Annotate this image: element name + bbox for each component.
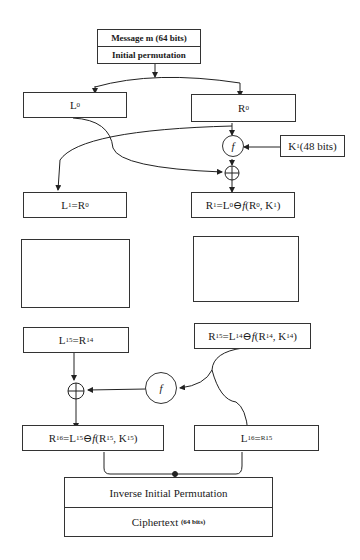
r16-args-open: (R (95, 432, 106, 444)
l15-rhs: R (79, 334, 86, 346)
k1-box: K1 (48 bits) (280, 135, 345, 157)
l15-box: L15 = R14 (23, 327, 129, 353)
r1-lhs: R (206, 199, 213, 211)
intermediate-rounds-left-box (21, 239, 130, 308)
inverse-permutation-box: Inverse Initial Permutation (64, 477, 273, 508)
r0-box: R0 (191, 94, 296, 122)
f-function-circle-round16: f (145, 372, 177, 404)
r16-args-sub2: 15 (127, 434, 134, 442)
r16-a: L (69, 432, 76, 444)
l15-lhs-sub: 15 (66, 336, 73, 344)
l16-lhs: L (241, 432, 248, 444)
k1-base: K (288, 140, 296, 152)
r0-sub: 0 (245, 104, 249, 112)
r15-args-sub2: 14 (286, 332, 293, 340)
r16-args-sub1: 15 (106, 434, 113, 442)
r16-a-sub: 15 (76, 434, 83, 442)
r16-close: ) (134, 432, 138, 444)
l16-rhs-sup: R15 (261, 434, 273, 442)
ciphertext-box: Ciphertext (64 bits) (64, 507, 273, 537)
r15-a-sub: 14 (235, 332, 242, 340)
r16-comma: , K (113, 432, 126, 444)
r1-a: L (223, 199, 230, 211)
r15-comma: , K (273, 330, 286, 342)
r15-xor: ⊖ (242, 330, 251, 343)
r15-args-open: (R (255, 330, 266, 342)
f-symbol-round16: f (159, 382, 162, 394)
f-symbol: f (231, 140, 234, 152)
r15-close: ) (293, 330, 297, 342)
l0-base: L (70, 99, 77, 111)
message-label: Message m (64 bits) (111, 33, 187, 43)
l16-box: L16 = R15 (194, 425, 319, 451)
inverse-permutation-label: Inverse Initial Permutation (110, 487, 228, 499)
r16-box: R16 = L15 ⊖ f(R15, K15) (22, 425, 164, 451)
message-box: Message m (64 bits) (97, 29, 201, 47)
r15-a: L (229, 330, 236, 342)
r15-box: R15 = L14 ⊖ f(R14, K14) (194, 323, 311, 349)
initial-permutation-label: Initial permutation (112, 50, 186, 60)
r0-base: R (238, 102, 245, 114)
r15-lhs: R (208, 330, 215, 342)
r1-args-open: (R (245, 199, 256, 211)
r1-xor: ⊖ (233, 199, 242, 212)
l15-lhs: L (59, 334, 66, 346)
r1-comma: , K (260, 199, 273, 211)
k1-suffix: (48 bits) (300, 140, 337, 152)
initial-permutation-box: Initial permutation (97, 46, 201, 64)
l1-box: L1 = R0 (23, 192, 127, 218)
f-function-circle: f (222, 135, 244, 157)
r1-close: ) (277, 199, 281, 211)
r1-box: R1 = L0 ⊖ f(R0, K1) (191, 192, 295, 218)
r15-lhs-sub: 15 (215, 332, 222, 340)
l1-lhs: L (61, 199, 68, 211)
l0-box: L0 (23, 92, 127, 118)
l1-rhs: R (78, 199, 85, 211)
l1-rhs-sub: 0 (85, 201, 89, 209)
l0-sub: 0 (77, 101, 81, 109)
ciphertext-label: Ciphertext (132, 516, 178, 528)
r16-xor: ⊖ (83, 432, 92, 445)
intermediate-rounds-right-box (193, 236, 299, 302)
r16-lhs-sub: 16 (56, 434, 63, 442)
l16-lhs-sub: 16 (247, 434, 254, 442)
r15-args-sub1: 14 (266, 332, 273, 340)
l15-rhs-sub: 14 (86, 336, 93, 344)
ciphertext-bits: (64 bits) (181, 518, 205, 526)
r16-lhs: R (49, 432, 56, 444)
